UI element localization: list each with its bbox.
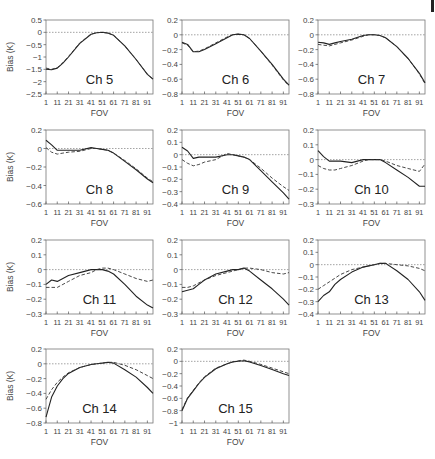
y-tick-label: 0 bbox=[310, 156, 315, 165]
x-tick-label: 31 bbox=[348, 318, 356, 327]
y-tick-label: −0.4 bbox=[298, 310, 314, 319]
dashed-series-line bbox=[46, 362, 153, 399]
x-tick-label: 61 bbox=[110, 208, 118, 217]
x-tick-label: 71 bbox=[393, 98, 401, 107]
x-tick-label: 21 bbox=[64, 427, 72, 436]
y-tick-label: 0.5 bbox=[31, 16, 43, 25]
x-tick-label: 51 bbox=[98, 208, 106, 217]
x-axis-label: FOV bbox=[91, 328, 109, 338]
x-axis-label: FOV bbox=[227, 218, 245, 228]
y-tick-label: −1.5 bbox=[26, 65, 42, 74]
y-tick-label: −0.3 bbox=[162, 310, 178, 319]
dashed-series-line bbox=[46, 268, 153, 287]
y-axis-label: Bias (K) bbox=[5, 262, 15, 292]
x-tick-label: 1 bbox=[180, 427, 184, 436]
dashed-series-line bbox=[46, 148, 153, 182]
y-tick-label: 0.2 bbox=[31, 345, 43, 354]
x-tick-label: 11 bbox=[53, 427, 61, 436]
x-tick-label: 41 bbox=[87, 427, 95, 436]
x-tick-label: 21 bbox=[200, 427, 208, 436]
y-tick-label: 0 bbox=[174, 266, 179, 275]
x-tick-label: 11 bbox=[189, 208, 197, 217]
x-tick-label: 11 bbox=[189, 98, 197, 107]
x-tick-label: 1 bbox=[44, 427, 48, 436]
x-tick-label: 11 bbox=[53, 208, 61, 217]
x-axis-label: FOV bbox=[91, 108, 109, 118]
chart-panel-ch-13: 0.20.10−0.1−0.2−0.3−0.411121314151617181… bbox=[298, 236, 425, 338]
x-tick-label: 61 bbox=[382, 98, 390, 107]
chart-panel-ch-5: 0.50−0.5−1−1.5−2−2.51112131415161718191F… bbox=[5, 16, 153, 118]
x-tick-label: 81 bbox=[132, 98, 140, 107]
x-tick-label: 21 bbox=[64, 98, 72, 107]
y-tick-label: 0.1 bbox=[167, 251, 179, 260]
y-tick-label: 0 bbox=[310, 31, 315, 40]
x-tick-label: 71 bbox=[121, 318, 129, 327]
x-tick-label: 11 bbox=[325, 318, 333, 327]
channel-title: Ch 14 bbox=[82, 401, 117, 416]
x-tick-label: 51 bbox=[234, 427, 242, 436]
y-tick-label: 0.2 bbox=[303, 16, 315, 25]
y-tick-label: −0.2 bbox=[162, 370, 178, 379]
y-tick-label: 0 bbox=[310, 261, 315, 270]
chart-panel-ch-11: 0.20.10−0.1−0.2−0.31112131415161718191FO… bbox=[5, 236, 153, 338]
x-tick-label: 31 bbox=[348, 98, 356, 107]
x-tick-label: 51 bbox=[98, 98, 106, 107]
y-tick-label: 0.2 bbox=[167, 126, 179, 135]
x-tick-label: 31 bbox=[212, 98, 220, 107]
x-tick-label: 51 bbox=[98, 318, 106, 327]
x-tick-label: 81 bbox=[132, 318, 140, 327]
x-tick-label: 91 bbox=[143, 427, 151, 436]
x-tick-label: 61 bbox=[246, 98, 254, 107]
x-tick-label: 51 bbox=[234, 318, 242, 327]
y-tick-label: −0.6 bbox=[298, 75, 314, 84]
x-tick-label: 61 bbox=[382, 208, 390, 217]
x-axis-label: FOV bbox=[227, 437, 245, 447]
x-tick-label: 11 bbox=[325, 208, 333, 217]
chart-panel-ch-12: 0.20.10−0.1−0.2−0.31112131415161718191FO… bbox=[162, 236, 289, 338]
x-tick-label: 81 bbox=[132, 208, 140, 217]
y-tick-label: −0.8 bbox=[162, 90, 178, 99]
channel-title: Ch 9 bbox=[222, 182, 249, 197]
y-tick-label: −0.2 bbox=[26, 163, 42, 172]
x-tick-label: 21 bbox=[336, 318, 344, 327]
x-tick-label: 71 bbox=[393, 318, 401, 327]
x-axis-label: FOV bbox=[363, 108, 381, 118]
x-tick-label: 91 bbox=[143, 208, 151, 217]
y-tick-label: 0 bbox=[174, 31, 179, 40]
x-tick-label: 21 bbox=[200, 318, 208, 327]
solid-series-line bbox=[46, 140, 153, 183]
x-tick-label: 1 bbox=[180, 208, 184, 217]
y-tick-label: −0.8 bbox=[298, 90, 314, 99]
y-tick-label: 0 bbox=[38, 145, 43, 154]
y-tick-label: −0.5 bbox=[26, 41, 42, 50]
y-tick-label: −0.1 bbox=[298, 273, 314, 282]
y-tick-label: −0.4 bbox=[162, 382, 178, 391]
x-tick-label: 51 bbox=[370, 98, 378, 107]
chart-panel-ch-15: 0.20−0.2−0.4−0.6−0.8−1111213141516171819… bbox=[162, 345, 289, 447]
x-axis-label: FOV bbox=[91, 218, 109, 228]
x-tick-label: 61 bbox=[246, 427, 254, 436]
chart-panel-ch-9: 0.20.10−0.1−0.2−0.3−0.411121314151617181… bbox=[162, 126, 289, 228]
x-tick-label: 41 bbox=[359, 318, 367, 327]
y-tick-label: −0.3 bbox=[162, 188, 178, 197]
x-tick-label: 81 bbox=[268, 98, 276, 107]
x-tick-label: 61 bbox=[110, 427, 118, 436]
y-tick-label: −0.4 bbox=[162, 60, 178, 69]
x-tick-label: 51 bbox=[234, 208, 242, 217]
x-tick-label: 81 bbox=[132, 427, 140, 436]
x-tick-label: 71 bbox=[257, 318, 265, 327]
x-tick-label: 51 bbox=[370, 208, 378, 217]
y-tick-label: −0.1 bbox=[298, 170, 314, 179]
channel-title: Ch 12 bbox=[218, 292, 253, 307]
channel-title: Ch 13 bbox=[354, 292, 389, 307]
x-tick-label: 1 bbox=[44, 318, 48, 327]
x-tick-label: 1 bbox=[44, 208, 48, 217]
y-tick-label: −0.2 bbox=[162, 295, 178, 304]
x-tick-label: 81 bbox=[268, 427, 276, 436]
y-tick-label: −0.2 bbox=[298, 185, 314, 194]
x-tick-label: 71 bbox=[121, 427, 129, 436]
x-tick-label: 71 bbox=[121, 208, 129, 217]
x-axis-label: FOV bbox=[227, 328, 245, 338]
x-tick-label: 71 bbox=[121, 98, 129, 107]
x-tick-label: 1 bbox=[180, 318, 184, 327]
